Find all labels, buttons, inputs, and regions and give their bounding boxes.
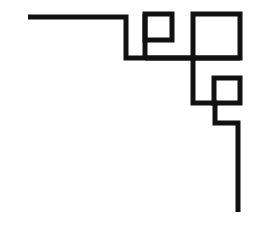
background-fill	[0, 0, 265, 225]
artwork-canvas	[0, 0, 265, 225]
corner-ornament-graphic	[0, 0, 265, 225]
